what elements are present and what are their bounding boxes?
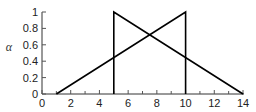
series-rising-membership [56, 12, 185, 94]
x-ticks: 02468101214 [39, 90, 249, 109]
y-tick-label: 0.2 [23, 72, 38, 84]
x-tick-label: 6 [125, 97, 131, 109]
y-tick-label: 0 [32, 88, 38, 100]
x-tick-label: 2 [68, 97, 74, 109]
y-tick-label: 1 [32, 6, 38, 18]
y-ticks: 00.20.40.60.81 [23, 6, 46, 100]
y-tick-label: 0.6 [23, 39, 38, 51]
x-tick-label: 14 [237, 97, 249, 109]
x-tick-label: 10 [179, 97, 191, 109]
y-tick-label: 0.4 [23, 55, 38, 67]
series-lines [56, 12, 243, 94]
y-tick-label: 0.8 [23, 22, 38, 34]
y-axis-label: α [6, 40, 13, 54]
membership-function-chart: 00.20.40.60.81 02468101214 α [0, 0, 256, 112]
x-tick-label: 4 [96, 97, 102, 109]
x-tick-label: 12 [208, 97, 220, 109]
x-tick-label: 0 [39, 97, 45, 109]
series-falling-membership [114, 12, 243, 94]
x-tick-label: 8 [154, 97, 160, 109]
